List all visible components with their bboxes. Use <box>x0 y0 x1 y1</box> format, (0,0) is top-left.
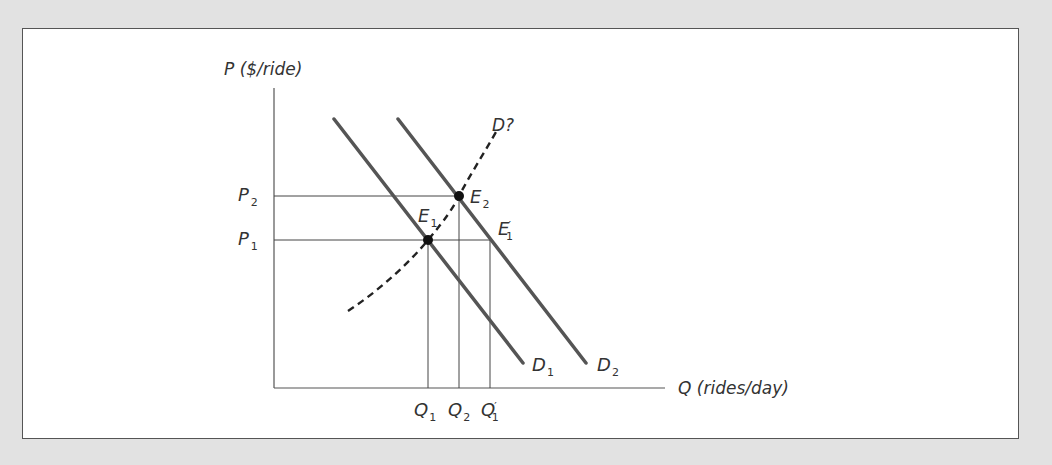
point-e2 <box>454 191 464 201</box>
price-label-p1: P1 <box>238 228 258 253</box>
point-label-e2: E2 <box>470 186 489 211</box>
point-label-e1: E1 <box>418 205 437 230</box>
quantity-label-q2: Q2 <box>448 399 470 424</box>
x-axis-label: Q (rides/day) <box>678 378 789 398</box>
demand-diagram: P ($/ride) Q (rides/day) P2 P1 Q1 Q2 Q′1… <box>0 0 1052 465</box>
point-label-e1-prime: E′1 <box>498 218 513 243</box>
y-axis-label: P ($/ride) <box>224 59 302 79</box>
curve-label-d-question: D? <box>492 115 514 135</box>
curve-label-d1: D1 <box>532 354 554 379</box>
curve-label-d2: D2 <box>597 354 619 379</box>
price-label-p2: P2 <box>238 184 258 209</box>
point-e1 <box>423 235 433 245</box>
quantity-label-q1-prime: Q′1 <box>481 399 499 424</box>
quantity-label-q1: Q1 <box>414 399 436 424</box>
